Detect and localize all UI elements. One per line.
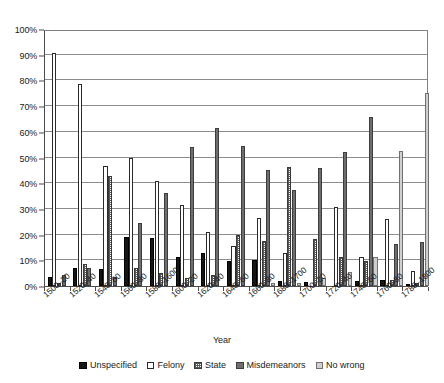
bar-group bbox=[403, 31, 429, 286]
bar-misdemeanors bbox=[343, 152, 347, 286]
bar-group bbox=[352, 31, 378, 286]
y-axis-tick-label: 20% bbox=[20, 231, 37, 240]
bar-unspecified bbox=[406, 284, 410, 286]
bar-felony bbox=[359, 257, 363, 286]
bar-group bbox=[45, 31, 71, 286]
bar-felony bbox=[206, 232, 210, 286]
bar-state bbox=[159, 273, 163, 286]
bar-felony bbox=[52, 53, 56, 286]
y-axis-tick-label: 0% bbox=[24, 283, 37, 292]
bar-unspecified bbox=[73, 268, 77, 286]
bar-unspecified bbox=[48, 277, 52, 287]
x-axis-tick-mark bbox=[121, 287, 122, 291]
bar-felony bbox=[411, 271, 415, 286]
bar-felony bbox=[283, 253, 287, 286]
bar-state bbox=[108, 176, 112, 287]
bar-state bbox=[364, 261, 368, 286]
bar-felony bbox=[103, 166, 107, 286]
bar-felony bbox=[231, 246, 235, 286]
bar-misdemeanors bbox=[318, 168, 322, 286]
bar-unspecified bbox=[380, 280, 384, 286]
bar-felony bbox=[385, 219, 389, 286]
legend-item-unspecified: Unspecified bbox=[79, 361, 137, 370]
bar-unspecified bbox=[99, 269, 103, 286]
y-axis-tick-label: 90% bbox=[20, 51, 37, 60]
bar-misdemeanors bbox=[292, 190, 296, 286]
bar-state bbox=[262, 241, 266, 286]
legend-swatch-state bbox=[194, 362, 202, 370]
bar-group bbox=[96, 31, 122, 286]
bar-felony bbox=[257, 218, 261, 286]
bar-group bbox=[224, 31, 250, 286]
bar-state bbox=[134, 268, 138, 287]
bar-state bbox=[211, 275, 215, 286]
legend-item-felony: Felony bbox=[147, 361, 185, 370]
bar-felony bbox=[129, 158, 133, 286]
bar-felony bbox=[155, 181, 159, 286]
chart-legend: UnspecifiedFelonyStateMisdemeanorsNo wro… bbox=[0, 361, 444, 370]
bar-misdemeanors bbox=[215, 128, 219, 286]
bar-state bbox=[83, 264, 87, 286]
bar-state bbox=[185, 278, 189, 286]
plot-area bbox=[44, 30, 428, 287]
legend-label: Unspecified bbox=[90, 361, 137, 370]
x-axis-tick-mark bbox=[198, 287, 199, 291]
bar-felony bbox=[334, 207, 338, 286]
bar-group bbox=[327, 31, 353, 286]
x-axis-tick-mark bbox=[351, 287, 352, 291]
bar-group bbox=[122, 31, 148, 286]
y-axis-tick-label: 10% bbox=[20, 257, 37, 266]
bar-state bbox=[415, 283, 419, 286]
y-axis-tick-label: 60% bbox=[20, 128, 37, 137]
legend-swatch-no-wrong bbox=[316, 362, 324, 370]
bar-group bbox=[173, 31, 199, 286]
legend-swatch-misdemeanors bbox=[236, 362, 244, 370]
bar-misdemeanors bbox=[164, 193, 168, 286]
bar-misdemeanors bbox=[87, 268, 91, 286]
bar-unspecified bbox=[252, 260, 256, 286]
y-axis-tick-label: 50% bbox=[20, 154, 37, 163]
bar-group bbox=[250, 31, 276, 286]
legend-label: No wrong bbox=[326, 361, 365, 370]
bar-state bbox=[390, 280, 394, 286]
x-axis-tick-mark bbox=[249, 287, 250, 291]
legend-item-no-wrong: No wrong bbox=[316, 361, 365, 370]
bar-unspecified bbox=[227, 261, 231, 286]
bar-unspecified bbox=[355, 281, 359, 286]
x-axis-tick-mark bbox=[377, 287, 378, 291]
x-axis-tick-mark bbox=[402, 287, 403, 291]
bar-unspecified bbox=[176, 257, 180, 286]
bar-misdemeanors bbox=[369, 117, 373, 286]
bar-misdemeanors bbox=[138, 223, 142, 286]
bar-state bbox=[57, 283, 61, 286]
bar-no-wrong bbox=[425, 93, 429, 286]
x-axis-tick-mark bbox=[300, 287, 301, 291]
legend-label: Misdemeanors bbox=[247, 361, 306, 370]
bar-group bbox=[275, 31, 301, 286]
bar-misdemeanors bbox=[62, 275, 66, 286]
bar-state bbox=[236, 235, 240, 286]
legend-label: Felony bbox=[157, 361, 184, 370]
legend-item-misdemeanors: Misdemeanors bbox=[236, 361, 306, 370]
bar-felony bbox=[78, 84, 82, 286]
bar-unspecified bbox=[201, 253, 205, 286]
y-axis-tick-labels: 0%10%20%30%40%50%60%70%80%90%100% bbox=[0, 22, 44, 294]
bar-unspecified bbox=[124, 237, 128, 286]
chart-page: 0%10%20%30%40%50%60%70%80%90%100% 1500–2… bbox=[0, 0, 444, 383]
x-axis-tick-mark bbox=[172, 287, 173, 291]
bar-felony bbox=[180, 205, 184, 286]
bar-state bbox=[313, 239, 317, 286]
y-axis-tick-label: 70% bbox=[20, 103, 37, 112]
bar-unspecified bbox=[304, 282, 308, 286]
y-axis-tick-label: 80% bbox=[20, 77, 37, 86]
legend-item-state: State bbox=[194, 361, 226, 370]
x-axis-tick-mark bbox=[326, 287, 327, 291]
x-axis-title: Year bbox=[0, 335, 444, 345]
bar-misdemeanors bbox=[241, 146, 245, 286]
legend-label: State bbox=[205, 361, 226, 370]
bar-misdemeanors bbox=[266, 170, 270, 286]
x-axis-tick-mark bbox=[95, 287, 96, 291]
bar-state bbox=[287, 167, 291, 286]
y-axis-tick-label: 40% bbox=[20, 180, 37, 189]
bar-misdemeanors bbox=[420, 242, 424, 286]
